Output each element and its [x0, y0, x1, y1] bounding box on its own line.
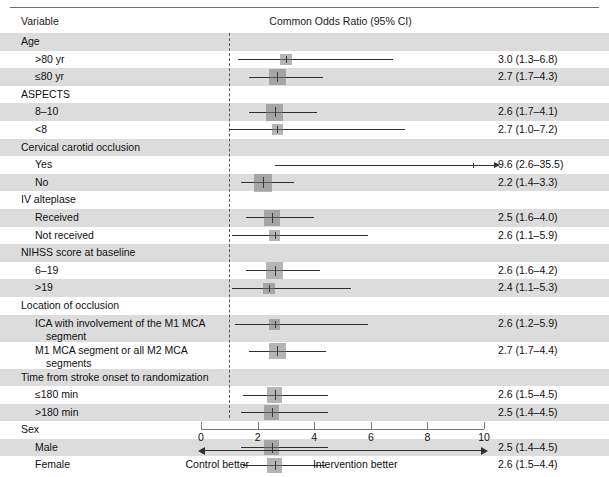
row-odds-ratio-value: 2.5 (1.6–4.0) [498, 211, 558, 224]
forest-data-row: Received2.5 (1.6–4.0) [0, 209, 609, 227]
axis-tick-label: 2 [255, 431, 261, 443]
row-label: IV alteplase [21, 193, 76, 206]
forest-data-row: Yes9.6 (2.6–35.5) [0, 156, 609, 174]
row-label: >19 [35, 281, 53, 294]
forest-group-row: ASPECTS [0, 86, 609, 104]
direction-label-left: Control better [185, 458, 249, 470]
forest-data-row: >192.4 (1.1–5.3) [0, 279, 609, 297]
forest-data-row: ≤180 min2.6 (1.5–4.5) [0, 386, 609, 404]
row-odds-ratio-value: 2.7 (1.0–7.2) [498, 123, 558, 136]
row-odds-ratio-value: 2.6 (1.2–5.9) [498, 317, 558, 330]
direction-arrow-left [198, 447, 205, 455]
forest-data-row: No2.2 (1.4–3.3) [0, 174, 609, 192]
direction-label-right: Intervention better [313, 458, 398, 470]
forest-group-row: Location of occlusion [0, 297, 609, 315]
row-label: Not received [35, 229, 94, 242]
forest-group-row: Time from stroke onset to randomization [0, 369, 609, 387]
row-odds-ratio-value: 9.6 (2.6–35.5) [498, 158, 563, 171]
row-label: <8 [35, 123, 47, 136]
column-header-odds-ratio: Common Odds Ratio (95% CI) [0, 15, 609, 27]
row-label: ≤180 min [35, 388, 78, 401]
forest-group-row: Cervical carotid occlusion [0, 139, 609, 157]
row-label: Age [21, 35, 40, 48]
row-odds-ratio-value: 3.0 (1.3–6.8) [498, 53, 558, 66]
forest-plot-figure: Variable Common Odds Ratio (95% CI) Age>… [0, 0, 609, 477]
direction-arrow-right [481, 447, 488, 455]
table-header: Variable Common Odds Ratio (95% CI) [0, 13, 609, 31]
axis-tick [201, 422, 202, 429]
row-odds-ratio-value: 2.4 (1.1–5.3) [498, 281, 558, 294]
forest-data-row: 8–102.6 (1.7–4.1) [0, 103, 609, 121]
axis-tick [258, 422, 259, 429]
axis-tick-label: 10 [478, 431, 490, 443]
axis-tick-label: 8 [424, 431, 430, 443]
row-label: 6–19 [35, 264, 58, 277]
row-label: 8–10 [35, 105, 58, 118]
row-odds-ratio-value: 2.7 (1.7–4.4) [498, 344, 558, 357]
x-axis: 0246810Control betterIntervention better [0, 418, 609, 477]
forest-rows: Age>80 yr3.0 (1.3–6.8)≤80 yr2.7 (1.7–4.3… [0, 33, 609, 474]
axis-baseline [201, 429, 484, 430]
axis-tick-label: 6 [368, 431, 374, 443]
row-label: ICA with involvement of the M1 MCAsegmen… [35, 317, 245, 343]
row-odds-ratio-value: 2.6 (1.7–4.1) [498, 105, 558, 118]
row-label: Location of occlusion [21, 299, 119, 312]
axis-tick [427, 422, 428, 429]
forest-group-row: IV alteplase [0, 191, 609, 209]
forest-data-row: 6–192.6 (1.6–4.2) [0, 262, 609, 280]
forest-data-row: ICA with involvement of the M1 MCAsegmen… [0, 315, 609, 342]
row-label: No [35, 176, 48, 189]
row-odds-ratio-value: 2.6 (1.5–4.5) [498, 388, 558, 401]
row-label: NIHSS score at baseline [21, 246, 135, 259]
direction-line-right [229, 450, 481, 451]
row-label: >80 yr [35, 53, 64, 66]
forest-data-row: <82.7 (1.0–7.2) [0, 121, 609, 139]
row-odds-ratio-value: 2.5 (1.4–4.5) [498, 406, 558, 419]
forest-group-row: NIHSS score at baseline [0, 244, 609, 262]
row-label: Yes [35, 158, 52, 171]
axis-tick-label: 0 [198, 431, 204, 443]
axis-tick [314, 422, 315, 429]
top-divider [10, 7, 599, 8]
row-label: M1 MCA segment or all M2 MCAsegments [35, 344, 245, 370]
row-label: ASPECTS [21, 88, 70, 101]
row-odds-ratio-value: 2.7 (1.7–4.3) [498, 70, 558, 83]
row-odds-ratio-value: 2.2 (1.4–3.3) [498, 176, 558, 189]
forest-data-row: >80 yr3.0 (1.3–6.8) [0, 51, 609, 69]
row-odds-ratio-value: 2.6 (1.1–5.9) [498, 229, 558, 242]
row-label: ≤80 yr [35, 70, 64, 83]
forest-data-row: Not received2.6 (1.1–5.9) [0, 227, 609, 245]
row-odds-ratio-value: 2.6 (1.6–4.2) [498, 264, 558, 277]
axis-tick [484, 422, 485, 429]
direction-line-left [205, 450, 229, 451]
forest-group-row: Age [0, 33, 609, 51]
axis-tick [371, 422, 372, 429]
axis-tick-label: 4 [311, 431, 317, 443]
row-label: Cervical carotid occlusion [21, 141, 140, 154]
row-label: Time from stroke onset to randomization [21, 371, 209, 384]
row-label: >180 min [35, 406, 79, 419]
forest-data-row: M1 MCA segment or all M2 MCAsegments2.7 … [0, 342, 609, 369]
row-label: Received [35, 211, 79, 224]
forest-data-row: ≤80 yr2.7 (1.7–4.3) [0, 68, 609, 86]
